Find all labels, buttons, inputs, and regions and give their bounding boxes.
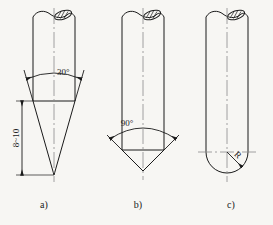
figure-b-caption: b) xyxy=(134,199,142,211)
figure-c-caption: c) xyxy=(227,199,235,211)
drawing-canvas: 30° 8~10 a) xyxy=(0,0,273,225)
figure-a-length-label: 8~10 xyxy=(11,128,21,147)
figure-a-caption: a) xyxy=(40,199,48,211)
figure-a-angle-label: 30° xyxy=(57,67,70,77)
figure-b-angle-label: 90° xyxy=(121,118,134,128)
technical-drawing-figure: 30° 8~10 a) xyxy=(0,0,273,225)
canvas-background xyxy=(0,0,273,225)
